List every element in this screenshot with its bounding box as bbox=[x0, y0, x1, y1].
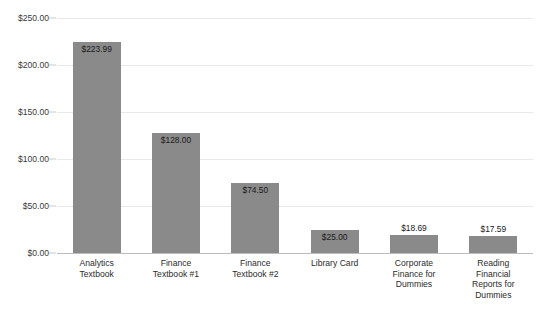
bar-value-label: $25.00 bbox=[322, 233, 348, 241]
bar-value-label: $223.99 bbox=[82, 45, 112, 53]
gridline-0 bbox=[57, 253, 533, 254]
bar[interactable]: $223.99 bbox=[73, 42, 121, 253]
y-tick-mark bbox=[49, 65, 56, 66]
bar-value-label: $74.50 bbox=[243, 186, 269, 194]
y-axis-tick-label: $250.00 bbox=[0, 14, 49, 23]
x-axis-labels: AnalyticsTextbookFinanceTextbook #1Finan… bbox=[57, 258, 533, 300]
x-axis-category-line: Finance bbox=[218, 258, 293, 269]
bar[interactable]: $18.69 bbox=[390, 235, 438, 253]
x-axis-category-line: Corporate bbox=[376, 258, 451, 269]
x-axis-category-line: Finance for bbox=[376, 269, 451, 280]
x-axis-category-line: Dummies bbox=[376, 279, 451, 290]
y-tick-mark bbox=[49, 159, 56, 160]
bar-value-label: $18.69 bbox=[401, 224, 427, 232]
bar-chart: $250.00$200.00$150.00$100.00$50.00$0.00 … bbox=[0, 0, 539, 311]
x-axis-category-label: CorporateFinance forDummies bbox=[374, 258, 453, 300]
y-tick-mark bbox=[49, 18, 56, 19]
y-tick-mark bbox=[49, 206, 56, 207]
y-tick-mark bbox=[49, 253, 56, 254]
x-axis-category-label: FinanceTextbook #2 bbox=[216, 258, 295, 300]
bar[interactable]: $17.59 bbox=[469, 236, 517, 253]
x-axis-category-label: Library Card bbox=[295, 258, 374, 300]
x-axis-category-line: Textbook #1 bbox=[138, 269, 213, 280]
y-tick-mark bbox=[49, 112, 56, 113]
x-axis-category-line: Reports for bbox=[456, 279, 531, 290]
bar-slot: $223.99 bbox=[57, 18, 136, 253]
y-axis-tick-label: $150.00 bbox=[0, 108, 49, 117]
bar-slot: $25.00 bbox=[295, 18, 374, 253]
bar-series: $223.99$128.00$74.50$25.00$18.69$17.59 bbox=[57, 18, 533, 253]
bar-value-label: $17.59 bbox=[480, 225, 506, 233]
x-axis-category-line: Analytics bbox=[59, 258, 134, 269]
x-axis-category-line: Library Card bbox=[297, 258, 372, 269]
bar-slot: $18.69 bbox=[374, 18, 453, 253]
bar-slot: $128.00 bbox=[136, 18, 215, 253]
x-axis-category-line: Textbook #2 bbox=[218, 269, 293, 280]
bar-slot: $17.59 bbox=[454, 18, 533, 253]
x-axis-category-label: ReadingFinancialReports forDummies bbox=[454, 258, 533, 300]
y-axis-tick-label: $200.00 bbox=[0, 61, 49, 70]
x-axis-category-label: AnalyticsTextbook bbox=[57, 258, 136, 300]
x-axis-category-line: Textbook bbox=[59, 269, 134, 280]
bar[interactable]: $128.00 bbox=[152, 133, 200, 253]
x-axis-category-label: FinanceTextbook #1 bbox=[136, 258, 215, 300]
y-axis-tick-label: $50.00 bbox=[0, 202, 49, 211]
y-axis-tick-label: $0.00 bbox=[0, 249, 49, 258]
x-axis-category-line: Reading bbox=[456, 258, 531, 269]
bar[interactable]: $25.00 bbox=[311, 230, 359, 254]
bar-value-label: $128.00 bbox=[161, 136, 191, 144]
bar-slot: $74.50 bbox=[216, 18, 295, 253]
x-axis-category-line: Dummies bbox=[456, 290, 531, 301]
bar[interactable]: $74.50 bbox=[231, 183, 279, 253]
x-axis-category-line: Finance bbox=[138, 258, 213, 269]
x-axis-category-line: Financial bbox=[456, 269, 531, 280]
y-axis-tick-label: $100.00 bbox=[0, 155, 49, 164]
